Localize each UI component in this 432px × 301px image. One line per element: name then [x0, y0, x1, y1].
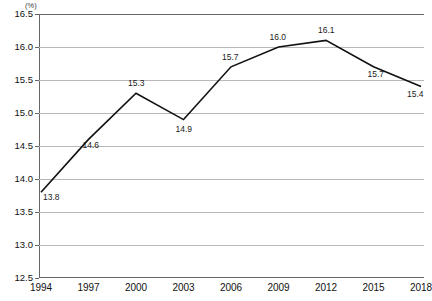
chart-title-strip [0, 0, 432, 9]
data-point-label: 15.7 [368, 70, 385, 79]
x-axis-tick-label: 2015 [362, 282, 384, 293]
data-point-label: 15.7 [222, 53, 239, 62]
x-axis-tick-label: 2012 [315, 282, 337, 293]
footnote [2, 292, 262, 301]
x-axis-tick-label: 2018 [410, 282, 432, 293]
data-point-label: 14.6 [83, 141, 100, 150]
data-point-label: 15.4 [407, 90, 424, 99]
y-axis-tick-label: 14.5 [15, 141, 34, 151]
y-axis-tick-label: 13.0 [15, 240, 34, 250]
data-point-label: 13.8 [43, 193, 60, 202]
x-axis-tick-label: 2009 [267, 282, 289, 293]
y-axis-tick-label: 16.0 [15, 42, 34, 52]
y-axis-tick-label: 15.0 [15, 108, 34, 118]
data-point-label: 15.3 [128, 79, 145, 88]
data-point-label: 16.1 [318, 26, 335, 35]
chart-plot-area: 16.516.015.515.014.514.013.513.012.5 199… [39, 14, 424, 278]
y-axis-tick-label: 15.5 [15, 75, 34, 85]
y-axis-tick-label: 13.5 [15, 207, 34, 217]
data-point-label: 16.0 [270, 33, 287, 42]
y-axis-tick-label: 16.5 [15, 9, 34, 19]
data-point-label: 14.9 [176, 125, 193, 134]
y-axis-tick-label: 14.0 [15, 174, 34, 184]
y-axis-tick-mark [35, 278, 39, 279]
